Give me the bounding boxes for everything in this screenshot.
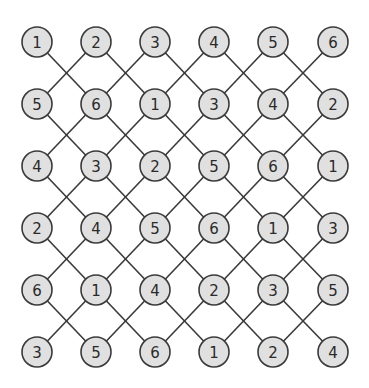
node-number: 5: [328, 282, 338, 300]
node-number: 6: [268, 158, 278, 176]
node-number: 3: [209, 96, 219, 114]
grid-node: 4: [140, 275, 170, 305]
grid-node: 3: [81, 151, 111, 181]
grid-node: 5: [22, 89, 52, 119]
node-number: 5: [32, 96, 42, 114]
node-number: 2: [150, 158, 160, 176]
node-number: 3: [91, 158, 101, 176]
grid-node: 4: [81, 213, 111, 243]
grid-node: 3: [199, 89, 229, 119]
node-number: 3: [328, 220, 338, 238]
node-number: 4: [268, 96, 278, 114]
node-number: 6: [32, 282, 42, 300]
grid-node: 6: [318, 27, 348, 57]
grid-node: 5: [199, 151, 229, 181]
grid-node: 1: [318, 151, 348, 181]
node-number: 1: [32, 34, 42, 52]
node-number: 5: [209, 158, 219, 176]
grid-node: 3: [22, 337, 52, 367]
node-number: 2: [268, 344, 278, 362]
node-number: 3: [32, 344, 42, 362]
node-number: 1: [209, 344, 219, 362]
grid-node: 2: [199, 275, 229, 305]
diagram-canvas: 123456561342432561245613614235356124: [0, 0, 369, 388]
node-number: 4: [209, 34, 219, 52]
grid-node: 5: [140, 213, 170, 243]
grid-node: 2: [81, 27, 111, 57]
grid-node: 4: [199, 27, 229, 57]
node-number: 2: [209, 282, 219, 300]
grid-node: 3: [258, 275, 288, 305]
grid-node: 5: [258, 27, 288, 57]
grid-node: 1: [199, 337, 229, 367]
edge-layer: [37, 42, 333, 352]
lattice-diagram: 123456561342432561245613614235356124: [0, 0, 369, 388]
grid-node: 1: [81, 275, 111, 305]
grid-node: 4: [22, 151, 52, 181]
node-number: 5: [150, 220, 160, 238]
grid-node: 2: [22, 213, 52, 243]
grid-node: 6: [199, 213, 229, 243]
node-number: 5: [91, 344, 101, 362]
node-number: 2: [91, 34, 101, 52]
grid-node: 5: [81, 337, 111, 367]
node-number: 6: [150, 344, 160, 362]
grid-node: 6: [258, 151, 288, 181]
grid-node: 2: [140, 151, 170, 181]
node-number: 2: [32, 220, 42, 238]
node-number: 6: [91, 96, 101, 114]
node-number: 1: [268, 220, 278, 238]
grid-node: 2: [258, 337, 288, 367]
node-number: 2: [328, 96, 338, 114]
node-number: 4: [150, 282, 160, 300]
grid-node: 5: [318, 275, 348, 305]
node-number: 3: [268, 282, 278, 300]
node-number: 6: [209, 220, 219, 238]
grid-node: 4: [318, 337, 348, 367]
node-number: 5: [268, 34, 278, 52]
grid-node: 4: [258, 89, 288, 119]
grid-node: 1: [258, 213, 288, 243]
grid-node: 3: [318, 213, 348, 243]
grid-node: 1: [22, 27, 52, 57]
grid-node: 6: [81, 89, 111, 119]
node-number: 6: [328, 34, 338, 52]
node-number: 1: [91, 282, 101, 300]
node-number: 4: [328, 344, 338, 362]
node-number: 4: [32, 158, 42, 176]
grid-node: 6: [140, 337, 170, 367]
node-number: 1: [328, 158, 338, 176]
grid-node: 3: [140, 27, 170, 57]
grid-node: 1: [140, 89, 170, 119]
grid-node: 2: [318, 89, 348, 119]
node-number: 4: [91, 220, 101, 238]
node-number: 1: [150, 96, 160, 114]
node-number: 3: [150, 34, 160, 52]
grid-node: 6: [22, 275, 52, 305]
